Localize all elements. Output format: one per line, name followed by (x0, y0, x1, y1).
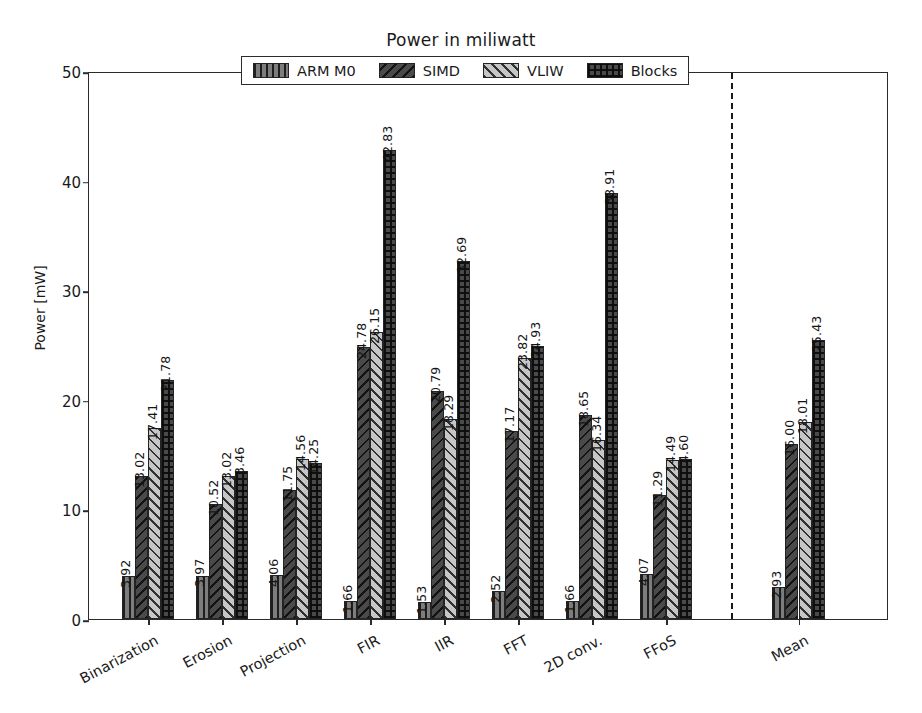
bar-value-label: 13.02 (132, 452, 147, 488)
legend-entry-blocks[interactable]: Blocks (587, 63, 678, 79)
bar (148, 428, 161, 619)
bar (161, 380, 174, 619)
bar-value-label: 2.52 (488, 575, 503, 603)
y-tick-mark (83, 511, 89, 513)
plot-inner: 01020304050 3.9213.0217.4121.783.9710.52… (89, 73, 887, 619)
bar (531, 346, 544, 619)
legend-label-arm-m0: ARM M0 (297, 63, 356, 79)
x-tick-mark (444, 619, 446, 625)
x-tick-mark (296, 619, 298, 625)
bar-value-label: 14.60 (676, 435, 691, 471)
x-tick-mark (222, 619, 224, 625)
bar-value-label: 21.78 (158, 356, 173, 392)
x-tick-mark (518, 619, 520, 625)
bar-value-label: 18.29 (441, 394, 456, 430)
y-tick-label: 50 (43, 64, 81, 82)
y-tick-mark (83, 72, 89, 74)
bar (383, 150, 396, 619)
bar-value-label: 11.75 (280, 466, 295, 502)
x-tick-label: 2D conv. (541, 632, 604, 676)
x-tick-label: IIR (432, 632, 456, 655)
bar (799, 422, 812, 619)
bar (505, 431, 518, 619)
bar-value-label: 32.69 (454, 236, 469, 272)
x-tick-label: Projection (237, 632, 308, 680)
bar (653, 495, 666, 619)
y-tick-label: 20 (43, 393, 81, 411)
bar (135, 476, 148, 619)
bar (222, 476, 235, 619)
y-tick-label: 40 (43, 174, 81, 192)
bar-value-label: 42.83 (380, 125, 395, 161)
x-tick-mark (666, 619, 668, 625)
legend-entry-vliw[interactable]: VLIW (483, 63, 564, 79)
bar-value-label: 3.97 (192, 559, 207, 587)
legend-entry-arm-m0[interactable]: ARM M0 (253, 63, 356, 79)
bar (296, 459, 309, 619)
group-divider (731, 73, 733, 619)
y-axis-label: Power [mW] (32, 208, 48, 408)
bar-value-label: 17.41 (145, 404, 160, 440)
x-tick-mark (592, 619, 594, 625)
bar-value-label: 25.43 (809, 316, 824, 352)
legend-swatch-vliw (483, 63, 519, 78)
y-tick-mark (83, 401, 89, 403)
bar (209, 504, 222, 619)
bar (518, 358, 531, 619)
figure: Power in miliwatt Power [mW] ARM M0 SIMD… (0, 0, 922, 713)
bar-value-label: 26.15 (367, 308, 382, 344)
bar (235, 471, 248, 619)
y-tick-mark (83, 182, 89, 184)
x-tick-label: Mean (768, 632, 810, 665)
bar-value-label: 11.29 (650, 471, 665, 507)
bar (283, 490, 296, 619)
bar (605, 193, 618, 619)
bar (812, 340, 825, 619)
bar (357, 347, 370, 619)
bar (592, 440, 605, 619)
bar (370, 332, 383, 619)
bar (679, 459, 692, 619)
legend-swatch-blocks (587, 63, 623, 78)
x-tick-label: Erosion (180, 632, 235, 671)
y-tick-mark (83, 291, 89, 293)
bar-value-label: 18.01 (795, 397, 810, 433)
bar (444, 419, 457, 619)
plot-area: 01020304050 3.9213.0217.4121.783.9710.52… (88, 72, 888, 620)
x-tick-mark (370, 619, 372, 625)
bar-value-label: 13.46 (232, 447, 247, 483)
x-tick-label: FIR (355, 632, 383, 657)
bar-value-label: 14.25 (306, 439, 321, 475)
legend-label-simd: SIMD (423, 63, 460, 79)
legend-label-vliw: VLIW (527, 63, 564, 79)
bar-value-label: 2.93 (769, 571, 784, 599)
x-tick-mark (148, 619, 150, 625)
y-tick-label: 0 (43, 612, 81, 630)
legend: ARM M0 SIMD VLIW Blocks (241, 56, 689, 85)
bar-value-label: 16.34 (589, 416, 604, 452)
bar-value-label: 1.66 (340, 585, 355, 613)
bar-value-label: 38.91 (602, 168, 617, 204)
x-tick-label: FFT (501, 632, 531, 658)
x-tick-mark (799, 619, 801, 625)
bar-value-label: 24.93 (528, 321, 543, 357)
bar-value-label: 3.92 (118, 560, 133, 588)
bar (309, 463, 322, 619)
bar-value-label: 1.53 (414, 586, 429, 614)
y-tick-mark (83, 620, 89, 622)
chart-title: Power in miliwatt (0, 30, 922, 50)
x-tick-label: Binarization (77, 632, 161, 687)
y-tick-label: 30 (43, 283, 81, 301)
bar-value-label: 1.66 (562, 585, 577, 613)
legend-swatch-arm-m0 (253, 63, 289, 78)
x-tick-label: FFoS (641, 632, 679, 662)
bar-value-label: 4.07 (636, 558, 651, 586)
y-tick-label: 10 (43, 502, 81, 520)
bar (785, 444, 798, 619)
legend-label-blocks: Blocks (631, 63, 678, 79)
bar (457, 261, 470, 619)
legend-entry-simd[interactable]: SIMD (379, 63, 460, 79)
bar-value-label: 17.17 (502, 407, 517, 443)
bar (666, 460, 679, 619)
bar-value-label: 4.06 (266, 558, 281, 586)
